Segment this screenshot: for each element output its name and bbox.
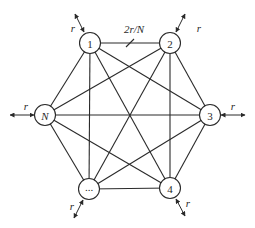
edge-2-3 xyxy=(170,43,210,115)
rate-label-3: r xyxy=(231,100,236,112)
double-arrow-icon xyxy=(176,14,185,32)
double-arrow-icon xyxy=(176,199,185,216)
node-1: 1 xyxy=(80,33,101,54)
node-label: 3 xyxy=(207,110,213,122)
node-N: N xyxy=(35,105,56,126)
node-2: 2 xyxy=(160,33,181,54)
edge-3-dots xyxy=(89,115,210,189)
node-3: 3 xyxy=(200,105,221,126)
complete-graph-diagram: 2r/N rrrrrr 1234...N xyxy=(0,0,255,228)
rate-label-dots: r xyxy=(70,200,75,212)
node-dots: ... xyxy=(79,179,100,200)
node-label: ... xyxy=(85,181,94,193)
edges xyxy=(45,43,210,189)
rate-label-N: r xyxy=(24,100,29,112)
edge-3-4 xyxy=(170,115,210,188)
double-arrow-icon xyxy=(74,200,83,218)
edge-dots-N xyxy=(45,115,89,189)
edge-1-N xyxy=(45,43,90,115)
double-arrow-icon xyxy=(75,14,84,32)
edge-1-dots xyxy=(89,43,90,189)
edge-4-dots xyxy=(89,188,170,189)
rate-label-1: r xyxy=(71,22,76,34)
node-label: 2 xyxy=(167,38,173,50)
node-label: 1 xyxy=(87,38,93,50)
node-label: N xyxy=(40,110,49,122)
link-rate-label: 2r/N xyxy=(124,23,145,35)
rate-label-4: r xyxy=(186,197,191,209)
rate-label-2: r xyxy=(197,22,202,34)
node-4: 4 xyxy=(160,178,181,199)
node-label: 4 xyxy=(167,183,173,195)
nodes: 1234...N xyxy=(35,33,221,200)
